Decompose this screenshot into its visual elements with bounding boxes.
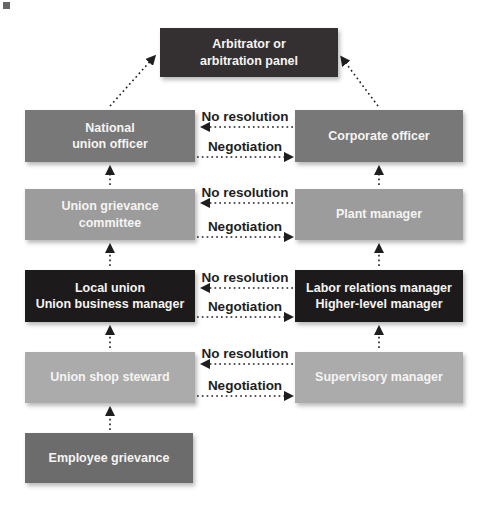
negotiation-label-3: Negotiation <box>196 299 294 315</box>
arrow-corporate-officer-to-arbitrator <box>342 58 378 106</box>
no-resolution-label-3: No resolution <box>196 270 294 286</box>
grievance-arbitration-flowchart: Arbitrator or arbitration panel National… <box>0 0 491 507</box>
box-plant-manager: Plant manager <box>295 189 463 240</box>
box-corporate-officer: Corporate officer <box>295 110 463 162</box>
box-union-shop-steward: Union shop steward <box>25 352 195 403</box>
negotiation-label-1: Negotiation <box>196 139 294 155</box>
negotiation-label-4: Negotiation <box>196 378 294 394</box>
box-labor-relations-manager: Labor relations manager Higher-level man… <box>295 270 463 322</box>
box-local-union: Local union Union business manager <box>25 270 195 322</box>
negotiation-label-2: Negotiation <box>196 219 294 235</box>
box-supervisory-manager: Supervisory manager <box>295 352 463 403</box>
no-resolution-label-2: No resolution <box>196 185 294 201</box>
box-employee-grievance: Employee grievance <box>25 433 193 483</box>
no-resolution-label-1: No resolution <box>196 109 294 125</box>
no-resolution-label-4: No resolution <box>196 346 294 362</box>
box-union-grievance-committee: Union grievance committee <box>25 189 195 240</box>
arrow-national-officer-to-arbitrator <box>110 57 154 106</box>
box-arbitrator: Arbitrator or arbitration panel <box>160 28 338 77</box>
box-national-union-officer: National union officer <box>25 110 195 162</box>
